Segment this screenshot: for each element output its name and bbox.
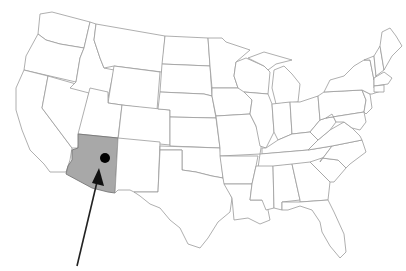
state-arkansas [220,156,258,184]
state-borders [16,12,402,258]
state-kansas [170,117,220,148]
state-south-dakota [160,64,212,96]
location-marker-dot [100,153,110,163]
arrow-shaft [77,182,97,266]
state-wyoming [108,66,160,110]
state-new-mexico [115,138,160,193]
state-indiana [272,102,292,140]
state-michigan-lower [272,66,300,104]
state-florida [282,200,346,258]
state-connecticut [374,85,384,92]
us-map [0,0,406,271]
state-montana [94,24,165,72]
state-maine [380,28,402,70]
state-north-dakota [162,36,210,66]
